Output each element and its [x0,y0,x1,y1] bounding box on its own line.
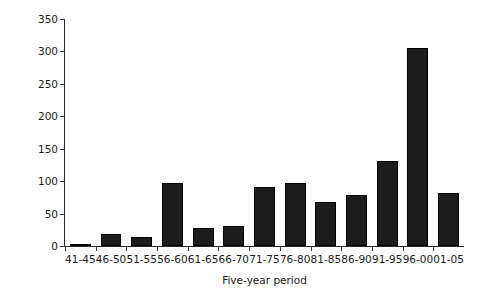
bar-slot [218,19,249,246]
bar-slot [188,19,219,246]
bar [315,202,336,246]
y-axis-tick-labels: 350 300 250 200 150 100 50 0 [22,0,58,304]
x-tick-label: 41-45 [65,253,96,269]
x-tick-label: 86-90 [341,253,372,269]
x-tick-mark [403,247,404,251]
bar-chart: Number of birds 350 300 250 200 150 100 … [0,0,485,304]
bar-series [65,19,464,246]
bar [285,183,306,246]
x-tick-slot [372,247,403,252]
bar-slot [65,19,96,246]
x-tick-slot [403,247,434,252]
x-tick-mark [188,247,189,251]
bar [70,244,91,246]
bar [407,48,428,246]
y-tick-label: 0 [24,241,58,251]
bar-slot [372,19,403,246]
x-tick-mark [96,247,97,251]
bar [254,187,275,246]
bar [162,183,183,246]
x-tick-slot [433,247,464,252]
bar-slot [311,19,342,246]
y-tick-label: 350 [24,14,58,24]
x-tick-label: 61-65 [188,253,219,269]
x-tick-slot [341,247,372,252]
x-tick-label: 81-85 [311,253,342,269]
x-tick-slot [65,247,96,252]
bar [346,195,367,246]
x-tick-slot [157,247,188,252]
x-tick-mark [341,247,342,251]
bar-slot [403,19,434,246]
bar [131,237,152,246]
x-tick-mark [157,247,158,251]
x-tick-slot [218,247,249,252]
bar [377,161,398,246]
bar [223,226,244,246]
y-tick-label: 200 [24,111,58,121]
x-tick-label: 46-50 [96,253,127,269]
x-axis-title: Five-year period [65,274,464,286]
y-tick-label: 150 [24,144,58,154]
x-tick-mark [218,247,219,251]
x-tick-slot [249,247,280,252]
x-tick-slot [96,247,127,252]
bar-slot [96,19,127,246]
y-tick-label: 300 [24,46,58,56]
bar [101,234,122,246]
bar-slot [280,19,311,246]
x-tick-mark [433,247,434,251]
x-axis-tick-marks [65,247,464,252]
x-tick-label: 91-95 [372,253,403,269]
y-tick-label: 50 [24,209,58,219]
plot-area [65,19,464,246]
x-tick-slot [188,247,219,252]
bar-slot [249,19,280,246]
x-tick-label: 71-75 [249,253,280,269]
y-tick-label: 250 [24,79,58,89]
x-tick-mark [280,247,281,251]
x-tick-mark [311,247,312,251]
bar-slot [341,19,372,246]
bar [438,193,459,246]
x-tick-slot [280,247,311,252]
x-tick-label: 01-05 [433,253,464,269]
x-tick-label: 96-00 [403,253,434,269]
x-axis-tick-labels: 41-4546-5051-5556-6061-6566-7071-7576-80… [65,253,464,269]
x-tick-label: 66-70 [218,253,249,269]
x-tick-label: 56-60 [157,253,188,269]
x-tick-label: 76-80 [280,253,311,269]
y-tick-label: 100 [24,176,58,186]
x-tick-slot [311,247,342,252]
x-tick-mark [249,247,250,251]
x-tick-mark [126,247,127,251]
bar [193,228,214,246]
bar-slot [157,19,188,246]
bar-slot [126,19,157,246]
x-tick-mark [65,247,66,251]
bar-slot [433,19,464,246]
x-tick-label: 51-55 [126,253,157,269]
x-tick-mark [372,247,373,251]
x-tick-slot [126,247,157,252]
